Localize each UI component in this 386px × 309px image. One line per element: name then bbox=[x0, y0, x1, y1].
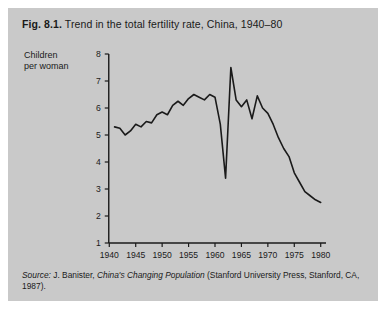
y-axis-tick-label: 2 bbox=[96, 211, 101, 221]
y-axis-tick-label: 4 bbox=[96, 157, 101, 167]
y-axis-tick-label: 8 bbox=[96, 49, 101, 59]
x-axis-tick-label: 1960 bbox=[205, 250, 224, 260]
y-axis: 12345678 bbox=[96, 49, 109, 248]
y-axis-tick-label: 7 bbox=[96, 76, 101, 86]
x-axis-tick-label: 1940 bbox=[100, 250, 119, 260]
y-axis-tick-label: 1 bbox=[96, 238, 101, 248]
x-axis-tick-label: 1975 bbox=[285, 250, 304, 260]
x-axis-tick-label: 1980 bbox=[311, 250, 330, 260]
x-axis-tick-label: 1970 bbox=[258, 250, 277, 260]
source-author: J. Banister, bbox=[51, 270, 97, 280]
x-axis-tick-label: 1950 bbox=[153, 250, 172, 260]
data-series-group bbox=[115, 68, 321, 203]
source-work-title: China's Changing Population bbox=[97, 270, 205, 280]
y-axis-tick-label: 5 bbox=[96, 130, 101, 140]
x-axis-tick-label: 1965 bbox=[232, 250, 251, 260]
x-axis: 194019451950195519601965197019751980 bbox=[100, 243, 331, 260]
x-axis-tick-label: 1945 bbox=[126, 250, 145, 260]
data-series-line bbox=[115, 68, 321, 203]
y-axis-tick-label: 6 bbox=[96, 103, 101, 113]
line-chart: 12345678 1940194519501955196019651970197… bbox=[8, 8, 378, 301]
x-axis-tick-label: 1955 bbox=[179, 250, 198, 260]
y-axis-tick-label: 3 bbox=[96, 184, 101, 194]
figure-container: Fig. 8.1. Trend in the total fertility r… bbox=[8, 8, 378, 301]
source-note: Source: J. Banister, China's Changing Po… bbox=[22, 270, 368, 291]
source-label: Source: bbox=[22, 270, 51, 280]
plot-area: 12345678 1940194519501955196019651970197… bbox=[8, 8, 378, 301]
